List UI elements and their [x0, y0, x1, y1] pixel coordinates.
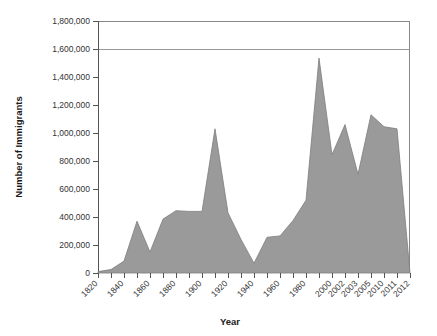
y-tick-label: 1,600,000: [52, 44, 90, 54]
x-tick-label: 1820: [79, 278, 100, 299]
y-tick-label: 400,000: [59, 212, 90, 222]
x-tick-label: 1880: [157, 278, 178, 299]
y-tick-label: 1,400,000: [52, 72, 90, 82]
chart-canvas: 0 200,000 400,000 600,000 800,000 1,000,…: [0, 0, 437, 336]
y-tick-label: 800,000: [59, 156, 90, 166]
x-tick-label: 1940: [235, 278, 256, 299]
x-tick-label: 1860: [131, 278, 152, 299]
y-tick-label: 600,000: [59, 184, 90, 194]
y-tick-label: 200,000: [59, 240, 90, 250]
x-axis-title: Year: [220, 316, 240, 327]
x-tick-label: 1980: [287, 278, 308, 299]
x-tick-label: 1920: [209, 278, 230, 299]
y-axis-tick-labels: 0 200,000 400,000 600,000 800,000 1,000,…: [52, 16, 90, 278]
y-tick-label: 1,800,000: [52, 16, 90, 26]
x-axis-ticks: [98, 273, 410, 278]
x-tick-label: 1900: [183, 278, 204, 299]
immigration-area-chart: 0 200,000 400,000 600,000 800,000 1,000,…: [0, 0, 437, 336]
x-axis-tick-labels: 1820184018601880190019201940196019802000…: [79, 278, 412, 299]
y-axis-ticks: [93, 22, 98, 274]
y-tick-label: 0: [85, 268, 90, 278]
y-tick-label: 1,000,000: [52, 128, 90, 138]
x-tick-label: 1840: [105, 278, 126, 299]
y-axis-title: Number of Immigrants: [13, 96, 24, 197]
y-tick-label: 1,200,000: [52, 100, 90, 110]
x-tick-label: 1960: [261, 278, 282, 299]
